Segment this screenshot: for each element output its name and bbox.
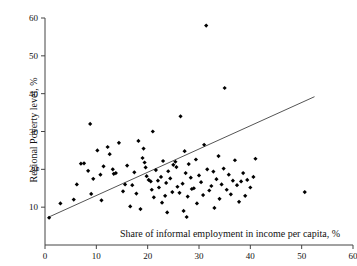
data-point <box>195 201 199 205</box>
data-point <box>212 206 216 210</box>
data-points <box>47 23 307 219</box>
data-point <box>237 200 241 204</box>
data-point <box>161 159 165 163</box>
data-point <box>209 184 213 188</box>
data-point <box>175 185 179 189</box>
data-point <box>138 207 142 211</box>
data-point <box>174 165 178 169</box>
data-point <box>98 173 102 177</box>
data-point <box>233 158 237 162</box>
data-point <box>219 182 223 186</box>
axes <box>45 18 353 245</box>
data-point <box>185 215 189 219</box>
tick-marks <box>41 18 353 249</box>
data-point <box>171 163 175 167</box>
data-point <box>95 148 99 152</box>
data-point <box>170 190 174 194</box>
data-point <box>89 192 93 196</box>
data-point <box>145 174 149 178</box>
x-tick-labels: 0102030405060 <box>43 251 357 261</box>
data-point <box>199 180 203 184</box>
data-point <box>75 182 79 186</box>
data-point <box>164 181 168 185</box>
data-point <box>128 204 132 208</box>
data-point <box>187 162 191 166</box>
scatter-chart: 0102030405060 102030405060 Share of info… <box>0 0 357 266</box>
plot-area: 0102030405060 102030405060 Share of info… <box>0 0 357 266</box>
x-axis-label: Share of informal employment in income p… <box>120 228 340 239</box>
data-point <box>227 173 231 177</box>
data-point <box>141 146 145 150</box>
data-point <box>189 176 193 180</box>
data-point <box>152 195 156 199</box>
data-point <box>222 166 226 170</box>
data-point <box>201 193 205 197</box>
x-tick-label-10: 10 <box>92 251 102 261</box>
y-axis-label: Regional Poverty level, % <box>28 78 39 183</box>
data-point <box>180 182 184 186</box>
y-tick-label-50: 50 <box>29 51 39 61</box>
data-point <box>225 188 229 192</box>
x-tick-label-0: 0 <box>43 251 48 261</box>
data-point <box>132 170 136 174</box>
data-point <box>177 191 181 195</box>
data-point <box>134 191 138 195</box>
data-point <box>144 165 148 169</box>
y-tick-label-10: 10 <box>29 202 39 212</box>
data-point <box>125 163 129 167</box>
data-point <box>241 171 245 175</box>
data-point <box>157 185 161 189</box>
data-point <box>223 86 227 90</box>
data-point <box>194 157 198 161</box>
trend-line <box>48 97 314 218</box>
data-point <box>160 201 164 205</box>
data-point <box>72 198 76 202</box>
data-point <box>165 210 169 214</box>
data-point <box>150 188 154 192</box>
data-point <box>207 188 211 192</box>
data-point <box>229 192 233 196</box>
data-point <box>163 194 167 198</box>
x-tick-label-30: 30 <box>195 251 205 261</box>
data-point <box>156 179 160 183</box>
data-point <box>88 122 92 126</box>
data-point <box>140 156 144 160</box>
data-point <box>251 175 255 179</box>
data-point <box>121 189 125 193</box>
regression-line <box>48 97 314 218</box>
x-tick-label-40: 40 <box>246 251 256 261</box>
data-point <box>214 177 218 181</box>
data-point <box>248 185 252 189</box>
data-point <box>204 23 208 27</box>
data-point <box>231 179 235 183</box>
data-point <box>168 176 172 180</box>
data-point <box>86 169 90 173</box>
data-point <box>211 170 215 174</box>
data-point <box>183 149 187 153</box>
data-point <box>184 171 188 175</box>
data-point <box>303 190 307 194</box>
data-point <box>197 173 201 177</box>
data-point <box>182 209 186 213</box>
data-point <box>106 145 110 149</box>
data-point <box>151 129 155 133</box>
data-point <box>82 161 86 165</box>
data-point <box>101 164 105 168</box>
data-point <box>217 197 221 201</box>
data-point <box>239 179 243 183</box>
data-point <box>111 167 115 171</box>
x-tick-label-20: 20 <box>143 251 153 261</box>
data-point <box>58 201 62 205</box>
data-point <box>117 141 121 145</box>
data-point <box>235 183 239 187</box>
data-point <box>159 175 163 179</box>
data-point <box>91 177 95 181</box>
x-tick-label-60: 60 <box>349 251 357 261</box>
data-point <box>166 169 170 173</box>
data-point <box>142 160 146 164</box>
data-point <box>130 183 134 187</box>
data-point <box>136 139 140 143</box>
data-point <box>205 167 209 171</box>
data-point <box>186 194 190 198</box>
data-point <box>108 152 112 156</box>
